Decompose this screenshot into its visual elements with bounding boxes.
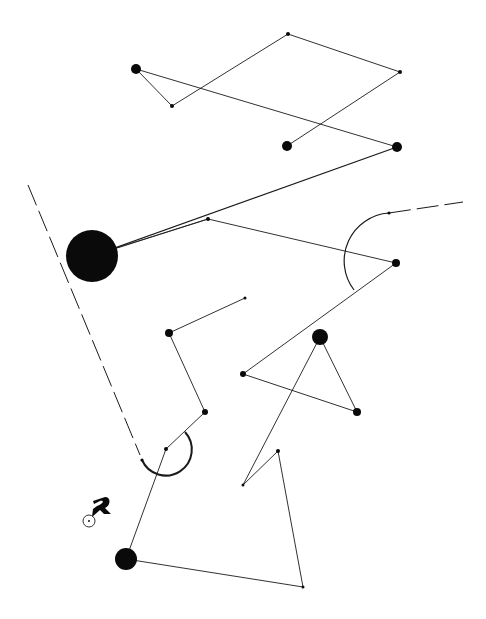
edges-layer (92, 34, 400, 587)
edge-M-L (166, 412, 205, 449)
curved-arrow-icon (92, 497, 111, 517)
node-L[interactable] (202, 409, 208, 415)
node-S[interactable] (302, 586, 305, 589)
node-A[interactable] (131, 64, 141, 74)
edge-B-C (172, 34, 288, 106)
node-G[interactable] (66, 230, 118, 282)
marker-dot-icon (88, 520, 90, 522)
edge-L-J (169, 333, 205, 412)
node-C[interactable] (286, 32, 290, 36)
node-O[interactable] (240, 371, 246, 377)
start-marker[interactable] (83, 497, 111, 527)
node-link-diagram (0, 0, 486, 619)
edge-F-G (92, 147, 397, 256)
dashed-guides-layer (28, 185, 463, 455)
edge-H-I (208, 219, 396, 263)
node-N[interactable] (312, 329, 328, 345)
edge-N-Q (243, 337, 320, 485)
node-P[interactable] (353, 408, 361, 416)
node-B[interactable] (170, 104, 174, 108)
node-Q[interactable] (242, 484, 245, 487)
arc-endpoint-1 (140, 458, 143, 461)
edge-O-P (243, 374, 357, 412)
edge-I-O (243, 263, 396, 374)
arc-around-M (142, 432, 192, 476)
edge-A-F (136, 69, 397, 147)
edge-Q-R (243, 451, 278, 485)
node-R[interactable] (276, 449, 280, 453)
node-H[interactable] (206, 217, 210, 221)
edge-P-N (320, 337, 357, 412)
node-D[interactable] (398, 70, 402, 74)
node-M[interactable] (164, 447, 168, 451)
arc-around-I (344, 213, 389, 290)
node-K[interactable] (244, 297, 247, 300)
edge-C-D (288, 34, 400, 72)
arcs-layer (140, 211, 390, 475)
edge-J-K (169, 298, 245, 333)
node-J[interactable] (165, 329, 173, 337)
right-dashed-guide (389, 202, 463, 213)
node-I[interactable] (392, 259, 400, 267)
node-F[interactable] (392, 142, 402, 152)
edge-S-T (126, 559, 303, 587)
arc-endpoint-0 (387, 211, 390, 214)
left-dashed-guide (28, 185, 140, 455)
edge-G-H-parallel (116, 219, 208, 248)
edge-D-E (287, 72, 400, 146)
node-E[interactable] (282, 141, 292, 151)
nodes-layer (66, 32, 402, 589)
node-T[interactable] (115, 548, 137, 570)
diagram-canvas (0, 0, 486, 619)
edge-R-S (278, 451, 303, 587)
